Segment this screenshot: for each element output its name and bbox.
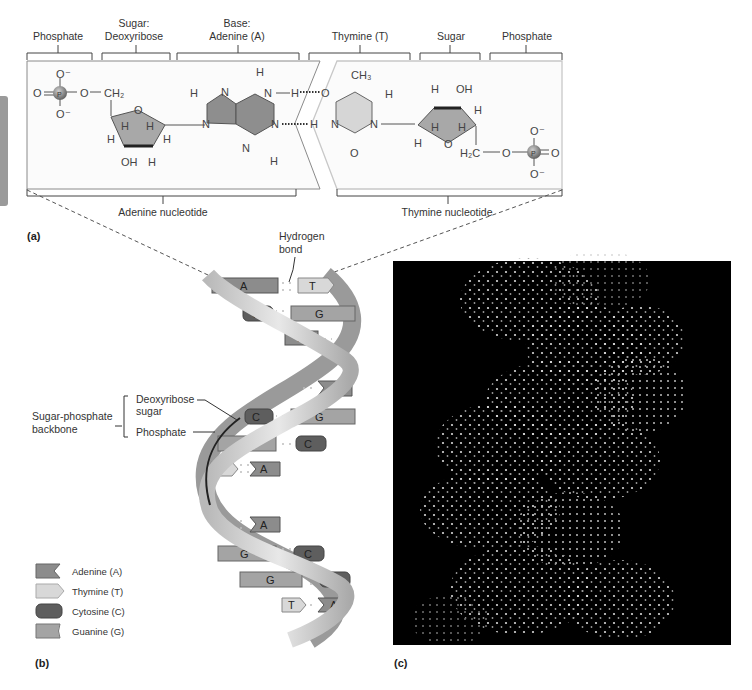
label-backbone: backbone xyxy=(32,423,78,435)
svg-text:Adenine (A): Adenine (A) xyxy=(72,566,122,577)
dna-structure-figure: Phosphate Sugar: Deoxyribose Base: Adeni… xyxy=(0,0,752,690)
svg-text:O: O xyxy=(33,87,42,99)
svg-text:H: H xyxy=(190,87,198,99)
svg-text:H: H xyxy=(107,133,115,145)
svg-text:Cytosine (C): Cytosine (C) xyxy=(72,606,125,617)
svg-text:G: G xyxy=(266,574,275,586)
svg-text:O: O xyxy=(321,87,330,99)
svg-text:Guanine (G): Guanine (G) xyxy=(72,626,124,637)
svg-text:H: H xyxy=(310,118,318,130)
label-deoxyribose: Deoxyribose xyxy=(136,393,195,405)
svg-text:O⁻: O⁻ xyxy=(530,168,545,180)
thymine-legend-icon xyxy=(36,584,64,598)
label-phosphate-left: Phosphate xyxy=(33,30,83,42)
base-legend: Adenine (A) Thymine (T) Cytosine (C) Gua… xyxy=(36,564,125,638)
label-base-line1: Base: xyxy=(224,17,251,29)
svg-text:O: O xyxy=(444,138,453,150)
svg-text:N: N xyxy=(242,142,250,154)
svg-text:H: H xyxy=(414,137,422,149)
svg-text:H: H xyxy=(291,87,299,99)
svg-text:N: N xyxy=(370,118,378,130)
svg-text:A: A xyxy=(260,519,268,531)
svg-text:H: H xyxy=(146,120,154,132)
label-phosphate-right: Phosphate xyxy=(502,30,552,42)
svg-text:H: H xyxy=(163,133,171,145)
svg-text:H: H xyxy=(458,121,466,133)
panel-b: Hydrogen bond A T C G A A xyxy=(32,230,355,669)
svg-text:O⁻: O⁻ xyxy=(56,68,71,80)
svg-text:H: H xyxy=(431,121,439,133)
cytosine-legend-icon xyxy=(36,604,62,618)
svg-text:H: H xyxy=(431,83,439,95)
label-sugar-deoxyribose: Deoxyribose xyxy=(105,30,164,42)
label-base-adenine: Adenine (A) xyxy=(209,30,264,42)
svg-text:N: N xyxy=(271,118,279,130)
svg-text:CH₃: CH₃ xyxy=(351,69,371,81)
panel-c: (c) xyxy=(393,250,731,669)
svg-text:N: N xyxy=(331,118,339,130)
svg-text:N: N xyxy=(264,87,272,99)
svg-text:T: T xyxy=(309,280,316,292)
svg-text:G: G xyxy=(315,308,324,320)
label-sugar-phosphate: Sugar-phosphate xyxy=(32,410,113,422)
svg-text:T: T xyxy=(288,599,295,611)
svg-text:Thymine (T): Thymine (T) xyxy=(72,586,123,597)
label-adenine-nucleotide: Adenine nucleotide xyxy=(118,206,207,218)
svg-text:O: O xyxy=(350,147,359,159)
svg-text:O⁻: O⁻ xyxy=(530,125,545,137)
svg-text:H: H xyxy=(148,156,156,168)
svg-text:H: H xyxy=(474,104,482,116)
svg-text:A: A xyxy=(240,280,248,292)
svg-text:N: N xyxy=(202,118,210,130)
svg-text:H₂C: H₂C xyxy=(460,147,480,159)
label-sugar-right: Sugar xyxy=(437,30,466,42)
panel-b-label: (b) xyxy=(35,657,49,669)
svg-text:H: H xyxy=(270,155,278,167)
svg-text:H: H xyxy=(256,66,264,78)
panel-c-label: (c) xyxy=(394,657,408,669)
svg-text:O: O xyxy=(502,147,511,159)
svg-text:OH: OH xyxy=(456,83,473,95)
svg-text:O: O xyxy=(551,147,560,159)
panel-a-label: (a) xyxy=(27,230,41,242)
svg-text:O: O xyxy=(80,87,89,99)
label-hydrogen-bond-2: bond xyxy=(279,243,303,255)
svg-text:C: C xyxy=(252,411,260,423)
svg-text:C: C xyxy=(304,438,312,450)
svg-text:N: N xyxy=(221,86,229,98)
svg-text:C: C xyxy=(304,548,312,560)
adenine-legend-icon xyxy=(36,564,60,578)
svg-text:CH₂: CH₂ xyxy=(104,87,124,99)
svg-text:H: H xyxy=(385,88,393,100)
label-thymine-nucleotide: Thymine nucleotide xyxy=(401,206,492,218)
svg-text:P: P xyxy=(531,150,536,157)
svg-text:OH: OH xyxy=(121,156,138,168)
guanine-legend-icon xyxy=(36,624,60,638)
label-sugar-line1: Sugar: xyxy=(119,17,150,29)
label-hydrogen-bond-1: Hydrogen xyxy=(279,230,325,242)
svg-text:P: P xyxy=(57,91,62,98)
label-phosphate-backbone: Phosphate xyxy=(136,426,186,438)
svg-text:O⁻: O⁻ xyxy=(56,108,71,120)
bottom-brackets xyxy=(27,189,562,204)
label-sugar: sugar xyxy=(136,405,163,417)
label-thymine: Thymine (T) xyxy=(332,30,389,42)
top-brackets xyxy=(27,45,562,60)
svg-text:A: A xyxy=(260,463,268,475)
svg-text:O: O xyxy=(134,104,143,116)
svg-text:H: H xyxy=(121,120,129,132)
